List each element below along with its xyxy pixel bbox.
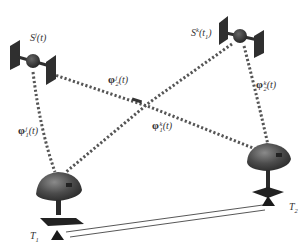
station-icon-t2 bbox=[247, 143, 291, 206]
label-station-t1: T1 bbox=[30, 231, 39, 241]
label-station-t2: T2 bbox=[289, 202, 298, 212]
link-sj-t2 bbox=[52, 74, 258, 150]
station-icon-t1 bbox=[36, 172, 84, 240]
diagram-canvas: Sj(t) Sk(t1) φj2(t) φk2(t) φk1(t) φj1(t)… bbox=[0, 0, 307, 252]
label-phi-k2: φk2(t) bbox=[256, 79, 276, 92]
link-sk-t2 bbox=[244, 46, 268, 145]
label-satellite-k: Sk(t1) bbox=[191, 28, 212, 38]
label-phi-k1: φk1(t) bbox=[152, 120, 172, 133]
label-phi-j1: φj1(t) bbox=[18, 125, 38, 138]
link-sj-t1 bbox=[33, 72, 55, 172]
baseline-t1-t2 bbox=[66, 205, 265, 237]
satellite-icon-k bbox=[219, 16, 264, 58]
label-satellite-j: Sj(t) bbox=[30, 33, 46, 43]
label-phi-j2: φj2(t) bbox=[108, 74, 128, 87]
